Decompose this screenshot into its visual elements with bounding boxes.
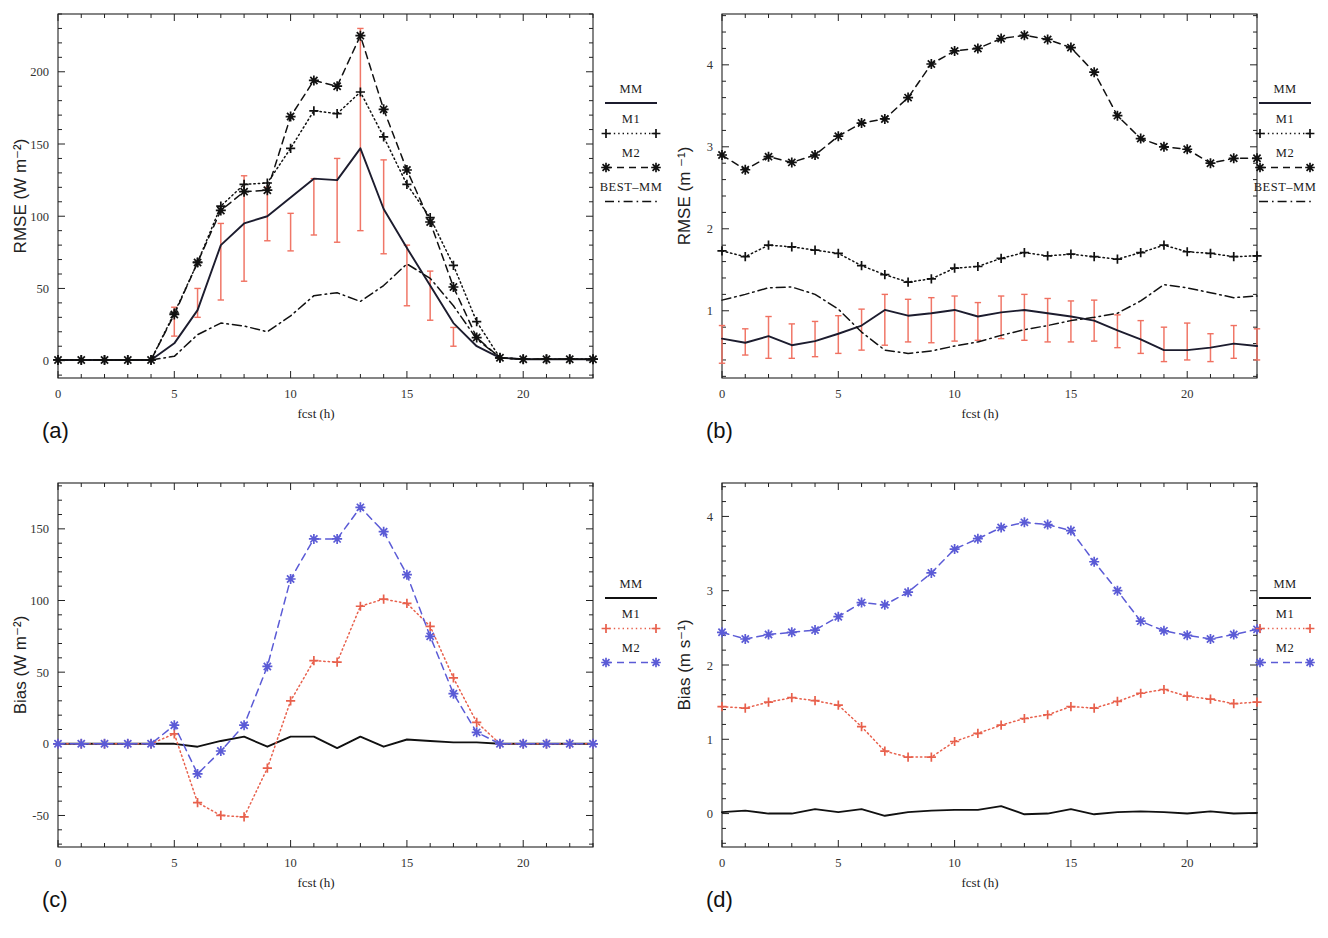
figure-sheet: 05101520050100150200RMSE (W m⁻²)fcst (h)… [0,0,1328,938]
series-m2 [717,30,1262,174]
legend-title: MM [1250,82,1320,97]
series-m1 [717,241,1261,287]
x-tick-label: 20 [1181,387,1194,401]
legend-swatch [599,656,663,669]
y-tick-label: 2 [707,659,713,673]
legend-swatch [1253,127,1317,140]
x-tick-label: 5 [171,387,177,401]
legend-entry-m1: M1 [596,112,666,140]
legend-entry-mm: MM [596,593,666,601]
legend: MMMMM1M2BEST–MM [596,82,666,208]
legend-swatch [1253,656,1317,669]
legend-entry-label: M1 [596,607,666,622]
legend-swatch [1253,195,1317,208]
y-axis-label: Bias (m s⁻¹) [674,619,695,710]
legend-title: MM [596,82,666,97]
legend-entry-m1: M1 [596,607,666,635]
x-axis-label: fcst (h) [962,406,999,422]
legend-title: MM [1250,577,1320,592]
y-axis-label: RMSE (m ⁻¹) [674,147,695,246]
legend-entry-m2: M2 [1250,146,1320,174]
y-tick-label: 150 [30,138,49,152]
legend-entry-label: M1 [596,112,666,127]
legend-title: MM [596,577,666,592]
legend-entry-label: M2 [596,146,666,161]
legend-entry-m1: M1 [1250,112,1320,140]
panel-tag: (d) [706,887,733,913]
y-tick-label: 50 [37,666,50,680]
axis-frame [58,483,593,847]
legend: MMMMM1M2 [596,577,666,669]
legend-swatch [599,622,663,635]
plot-canvas-d: 0510152001234 [664,469,1328,938]
x-tick-label: 15 [401,387,414,401]
panel-d: 0510152001234Bias (m s⁻¹)fcst (h)(d)MMMM… [664,469,1328,938]
series-m2 [53,31,598,365]
panel-b: 051015201234RMSE (m ⁻¹)fcst (h)(b)MMMMM1… [664,0,1328,469]
y-tick-label: 3 [707,140,713,154]
y-tick-label: 4 [707,510,714,524]
legend-entry-label: M2 [596,641,666,656]
legend-entry-m1: M1 [1250,607,1320,635]
y-tick-label: 3 [707,584,713,598]
x-tick-label: 15 [1065,856,1078,870]
x-tick-label: 5 [835,387,841,401]
y-tick-label: 0 [707,807,713,821]
series-m2 [717,517,1262,644]
legend-entry-label: BEST–MM [1250,180,1320,195]
x-axis-label: fcst (h) [298,406,335,422]
y-tick-label: -50 [32,809,49,823]
plot-canvas-c: 05101520-50050100150 [0,469,664,938]
x-tick-label: 15 [1065,387,1078,401]
series-bestmm [58,264,593,360]
series-mm [722,310,1257,350]
legend: MMMMM1M2BEST–MM [1250,82,1320,208]
y-tick-label: 1 [707,304,713,318]
plot-canvas-b: 051015201234 [664,0,1328,469]
legend-entry-m2: M2 [1250,641,1320,669]
axis-frame [722,14,1257,378]
x-tick-label: 10 [948,387,961,401]
legend-entry-label: BEST–MM [596,180,666,195]
y-tick-label: 50 [37,282,50,296]
y-tick-label: 200 [30,65,49,79]
legend-swatch [1253,593,1317,601]
legend-swatch [1253,98,1317,106]
x-axis-label: fcst (h) [962,875,999,891]
legend-swatch [1253,622,1317,635]
error-bars [719,294,1260,363]
x-tick-label: 0 [55,856,61,870]
series-m1 [717,685,1261,762]
plot-b: 051015201234RMSE (m ⁻¹)fcst (h)(b)MMMMM1… [664,0,1328,469]
x-tick-label: 5 [835,856,841,870]
plot-d: 0510152001234Bias (m s⁻¹)fcst (h)(d)MMMM… [664,469,1328,938]
y-axis-label: Bias (W m⁻²) [10,616,31,715]
x-tick-label: 15 [401,856,414,870]
legend-entry-bestmm: BEST–MM [1250,180,1320,208]
plot-c: 05101520-50050100150Bias (W m⁻²)fcst (h)… [0,469,664,938]
legend-entry-label: M1 [1250,607,1320,622]
legend-swatch [599,127,663,140]
legend-entry-m2: M2 [596,146,666,174]
legend-entry-mm: MM [596,98,666,106]
x-tick-label: 20 [1181,856,1194,870]
x-axis-label: fcst (h) [298,875,335,891]
x-tick-label: 20 [517,387,530,401]
axis-ticks [722,14,1257,378]
series-mm [722,806,1257,816]
legend-entry-mm: MM [1250,98,1320,106]
tick-labels: 0510152001234 [707,510,1194,870]
y-axis-label: RMSE (W m⁻²) [10,139,31,254]
y-tick-label: 150 [30,522,49,536]
y-tick-label: 100 [30,594,49,608]
x-tick-label: 0 [719,387,725,401]
panel-tag: (c) [42,887,68,913]
plot-a: 05101520050100150200RMSE (W m⁻²)fcst (h)… [0,0,664,469]
series-m1 [53,594,597,821]
x-tick-label: 10 [284,856,297,870]
y-tick-label: 4 [707,58,714,72]
x-tick-label: 20 [517,856,530,870]
panel-a: 05101520050100150200RMSE (W m⁻²)fcst (h)… [0,0,664,469]
axis-frame [58,14,593,378]
axis-ticks [58,14,593,378]
